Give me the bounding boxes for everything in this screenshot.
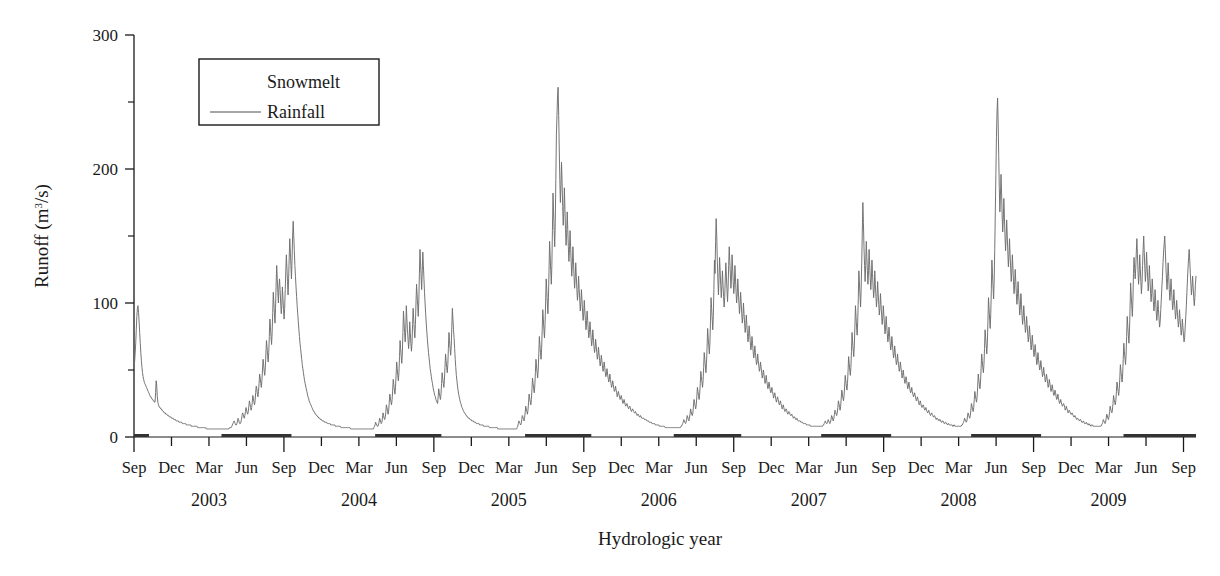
x-axis-month-label: Dec: [1058, 458, 1085, 477]
x-axis-title: Hydrologic year: [598, 528, 723, 549]
y-axis-tick-label: 0: [110, 428, 119, 447]
runoff-hydrograph-chart: Runoff (m3/s) 0100200300 SepDecMarJunSep…: [0, 0, 1220, 576]
x-axis-year-label: 2009: [1091, 490, 1127, 510]
x-axis-month-label: Sep: [272, 458, 297, 477]
legend-label-snowmelt: Snowmelt: [267, 72, 340, 92]
hydrograph-figure: Runoff (m3/s) 0100200300 SepDecMarJunSep…: [0, 0, 1220, 576]
x-axis-month-label: Dec: [908, 458, 935, 477]
x-axis-month-label: Mar: [495, 458, 523, 477]
x-axis-year-label: 2004: [341, 490, 377, 510]
x-axis-year-label: 2007: [791, 490, 827, 510]
x-axis-month-label: Sep: [871, 458, 896, 477]
y-axis-title-tail: /s): [31, 184, 53, 203]
y-axis: 0100200300: [93, 26, 135, 447]
svg-text:Runoff (m3/s): Runoff (m3/s): [31, 184, 53, 288]
x-axis-month-label: Sep: [721, 458, 746, 477]
x-axis-month-label: Sep: [1021, 458, 1046, 477]
y-axis-tick-label: 100: [93, 294, 119, 313]
x-axis-month-label: Mar: [945, 458, 973, 477]
x-axis-month-label: Jun: [835, 458, 858, 477]
chart-legend: Snowmelt Rainfall: [199, 59, 379, 125]
x-axis-month-label: Mar: [795, 458, 823, 477]
x-axis-month-label: Dec: [158, 458, 185, 477]
x-axis-month-label: Dec: [308, 458, 335, 477]
x-axis-month-label: Jun: [235, 458, 258, 477]
y-axis-tick-label: 200: [93, 160, 119, 179]
x-axis-month-label: Mar: [195, 458, 223, 477]
x-axis-year-label: 2006: [641, 490, 677, 510]
rainfall-runoff-series: [134, 87, 1196, 429]
x-axis-month-label: Jun: [385, 458, 408, 477]
x-axis-month-label: Jun: [1135, 458, 1158, 477]
x-axis-month-label: Mar: [1095, 458, 1123, 477]
y-axis-tick-label: 300: [93, 26, 119, 45]
legend-label-rainfall: Rainfall: [267, 102, 325, 122]
x-axis-month-label: Dec: [608, 458, 635, 477]
x-axis-month-label: Dec: [758, 458, 785, 477]
x-axis-month-label: Sep: [421, 458, 446, 477]
x-axis-year-label: 2005: [491, 490, 527, 510]
x-axis-year-label: 2008: [941, 490, 977, 510]
x-axis: SepDecMarJunSepDecMarJunSepDecMarJunSepD…: [122, 437, 1196, 510]
x-axis-month-label: Sep: [122, 458, 147, 477]
x-axis-month-label: Mar: [345, 458, 373, 477]
x-axis-month-label: Jun: [535, 458, 558, 477]
x-axis-month-label: Mar: [645, 458, 673, 477]
x-axis-month-label: Dec: [458, 458, 485, 477]
rainfall-runoff-line: [134, 87, 1196, 429]
x-axis-month-label: Jun: [985, 458, 1008, 477]
y-axis-title: Runoff (m3/s): [31, 184, 53, 288]
x-axis-month-label: Sep: [571, 458, 596, 477]
x-axis-year-label: 2003: [191, 490, 227, 510]
y-axis-title-base: Runoff (m: [31, 208, 53, 288]
x-axis-month-label: Jun: [685, 458, 708, 477]
x-axis-month-label: Sep: [1171, 458, 1196, 477]
